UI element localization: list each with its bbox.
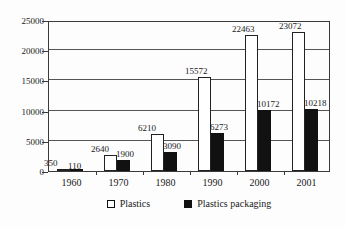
bar-value-label: 350	[44, 159, 58, 168]
bar-value-label: 1900	[116, 150, 134, 159]
plot-area: 3501102640190062103090155726273224631017…	[48, 21, 330, 172]
legend-item: Plastics	[107, 198, 151, 209]
bar-group: 62103090	[143, 22, 190, 171]
bar-value-label: 110	[68, 162, 81, 171]
x-axis-tick-label: 1960	[49, 178, 95, 188]
bar-value-label: 10172	[257, 100, 280, 109]
bar-group: 26401900	[96, 22, 143, 171]
y-axis-tick-label: 0	[0, 168, 44, 177]
bar-plastics	[151, 134, 164, 172]
legend-item: Plastics packaging	[184, 198, 271, 209]
x-axis-tick-label: 1990	[190, 178, 236, 188]
x-axis-tick-label: 1980	[143, 178, 189, 188]
x-axis-tick-mark	[284, 171, 285, 175]
bar-value-label: 6210	[138, 124, 156, 133]
bar-packaging	[164, 152, 177, 171]
y-axis-tick-label: 25000	[0, 17, 44, 26]
bar-value-label: 3090	[163, 142, 181, 151]
x-axis-tick-label: 1970	[96, 178, 142, 188]
bar-value-label: 22463	[232, 25, 255, 34]
y-axis-tick-label: 5000	[0, 138, 44, 147]
y-axis-tick-label: 15000	[0, 77, 44, 86]
bar-group: 2307210218	[284, 22, 331, 171]
legend-swatch-hollow-square-icon	[107, 200, 115, 208]
bar-packaging	[211, 133, 224, 171]
x-axis-tick-mark	[143, 171, 144, 175]
bar-value-label: 10218	[304, 99, 327, 108]
legend-swatch-filled-square-icon	[184, 200, 192, 208]
x-axis-tick-mark	[190, 171, 191, 175]
bar-group: 2246310172	[237, 22, 284, 171]
bar-packaging	[258, 110, 271, 171]
x-axis-tick-label: 2001	[284, 178, 330, 188]
y-axis-tick-label: 20000	[0, 47, 44, 56]
bar-packaging	[305, 109, 318, 171]
y-axis-tick-mark	[42, 172, 48, 173]
bar-value-label: 15572	[185, 67, 208, 76]
x-axis-tick-label: 2000	[237, 178, 283, 188]
legend-label: Plastics	[120, 198, 151, 209]
x-axis-tick-mark	[96, 171, 97, 175]
bar-group: 350110	[49, 22, 96, 171]
y-axis-tick-label: 10000	[0, 108, 44, 117]
bar-chart-figure: 0500010000150002000025000 35011026401900…	[0, 0, 346, 227]
legend-label: Plastics packaging	[197, 198, 271, 209]
bar-value-label: 23072	[279, 22, 302, 31]
bar-value-label: 6273	[210, 123, 228, 132]
bar-packaging	[117, 160, 130, 171]
x-axis-tick-mark	[237, 171, 238, 175]
bar-group: 155726273	[190, 22, 237, 171]
chart-legend: PlasticsPlastics packaging	[48, 198, 330, 209]
bar-value-label: 2640	[91, 145, 109, 154]
